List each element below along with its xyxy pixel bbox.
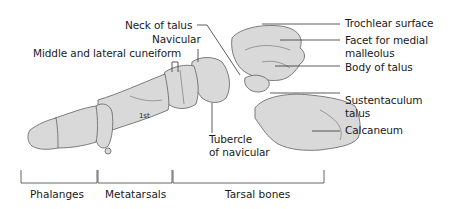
label-neck-of-talus: Neck of talus — [125, 19, 192, 31]
label-cuneiform: Middle and lateral cuneiform — [33, 47, 181, 59]
phalanx-distal — [28, 118, 58, 149]
talus-bone — [232, 26, 305, 81]
label-calcaneum: Calcaneum — [345, 124, 403, 136]
label-sustentaculum-line2: talus — [345, 107, 370, 119]
group-label-metatarsals: Metatarsals — [105, 188, 166, 200]
sustentaculum-bone — [245, 75, 270, 92]
label-facet-line1: Facet for medial — [345, 34, 428, 46]
label-facet-line2: malleolus — [345, 47, 395, 59]
group-label-phalanges: Phalanges — [30, 188, 84, 200]
phalanx-proximal — [54, 106, 98, 148]
label-tubercle-line2: of navicular — [209, 146, 270, 158]
group-label-tarsal-bones: Tarsal bones — [225, 188, 290, 200]
label-navicular: Navicular — [152, 33, 201, 45]
label-sustentaculum-line1: Sustentaculum — [345, 94, 423, 106]
label-body-of-talus: Body of talus — [345, 61, 413, 73]
foot-bones-diagram: Neck of talus Navicular Middle and later… — [0, 0, 455, 209]
label-tubercle-line1: Tubercle — [209, 133, 252, 145]
label-first-metatarsal: 1st — [139, 110, 150, 122]
label-trochlear-surface: Trochlear surface — [345, 17, 433, 29]
